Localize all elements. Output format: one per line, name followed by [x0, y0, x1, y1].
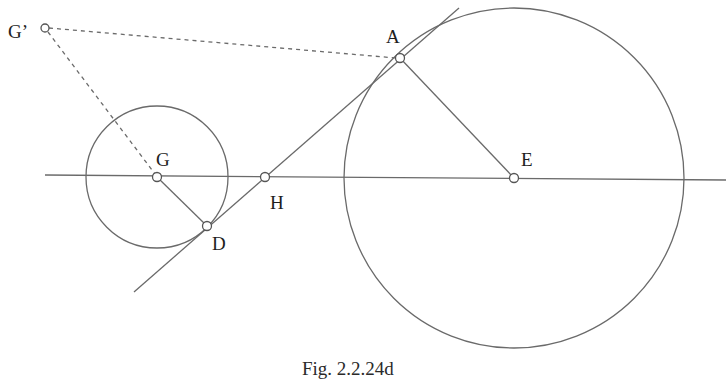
label-d: D: [212, 233, 226, 254]
point-e: [510, 174, 519, 183]
point-h: [261, 173, 270, 182]
figure-caption: Fig. 2.2.24d: [302, 358, 394, 379]
geometry-figure: G’ A G H E D Fig. 2.2.24d: [0, 0, 726, 382]
label-g-prime: G’: [8, 21, 28, 42]
dashed-line-gprime-a: [49, 28, 396, 58]
label-g: G: [156, 149, 170, 170]
point-g-prime: [41, 24, 49, 32]
label-h: H: [270, 192, 284, 213]
radius-EA: [400, 58, 514, 178]
point-d: [203, 222, 212, 231]
dashed-line-gprime-g: [48, 32, 155, 174]
label-a: A: [386, 26, 400, 47]
point-a: [396, 54, 405, 63]
axis-line: [45, 175, 726, 180]
point-g: [153, 173, 162, 182]
label-e: E: [521, 149, 533, 170]
tangent-line: [134, 8, 459, 292]
radius-GD: [157, 177, 207, 226]
